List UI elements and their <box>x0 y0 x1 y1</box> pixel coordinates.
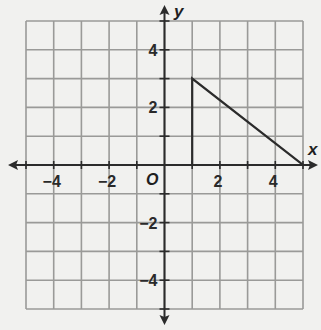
y-axis-label: y <box>173 2 185 21</box>
y-tick-label: −2 <box>139 215 157 232</box>
x-axis-label: x <box>307 140 319 159</box>
x-tick-label: 4 <box>269 173 278 190</box>
x-tick-label: −4 <box>43 173 61 190</box>
x-tick-label: −2 <box>98 173 116 190</box>
y-tick-label: 4 <box>149 42 158 59</box>
y-tick-label: −4 <box>139 272 157 289</box>
y-tick-label: 2 <box>149 99 158 116</box>
coordinate-plane: −4−22442−2−4 x y O <box>0 0 321 330</box>
origin-label: O <box>146 171 159 188</box>
x-tick-label: 2 <box>213 173 222 190</box>
